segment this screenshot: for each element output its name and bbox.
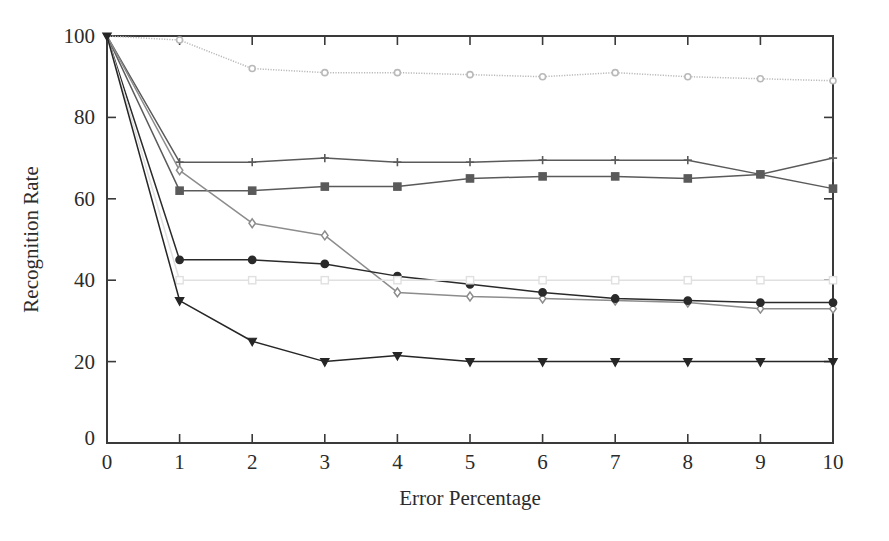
x-tick-label: 3	[320, 450, 331, 474]
plot-frame	[107, 36, 833, 443]
x-axis-ticks	[180, 36, 761, 443]
data-point	[612, 295, 619, 302]
data-point	[612, 277, 619, 284]
data-point	[539, 277, 546, 284]
series-series-7	[107, 36, 837, 366]
data-point	[829, 185, 836, 192]
data-point	[757, 277, 764, 284]
data-point	[684, 297, 691, 304]
data-point	[684, 359, 692, 367]
x-tick-label: 7	[610, 450, 621, 474]
data-point	[539, 173, 546, 180]
x-tick-label: 4	[392, 450, 403, 474]
data-point	[829, 277, 836, 284]
data-point	[756, 359, 764, 367]
data-point	[394, 288, 400, 297]
data-point	[249, 66, 255, 72]
data-point	[322, 231, 328, 240]
data-point	[248, 158, 256, 166]
data-point	[393, 158, 401, 166]
data-point	[321, 154, 329, 162]
data-point	[539, 289, 546, 296]
data-point	[177, 37, 183, 43]
data-point	[249, 219, 255, 228]
data-point	[176, 187, 183, 194]
x-tick-label: 5	[465, 450, 476, 474]
data-point	[249, 256, 256, 263]
data-point	[830, 78, 836, 84]
data-point	[321, 260, 328, 267]
data-point	[684, 156, 692, 164]
data-point	[466, 359, 474, 367]
y-axis-title: Recognition Rate	[19, 166, 43, 312]
line-chart: 012345678910 020406080100 Error Percenta…	[0, 0, 889, 541]
data-point	[321, 277, 328, 284]
data-point	[829, 359, 837, 367]
y-axis-ticks	[107, 117, 833, 361]
data-point	[684, 175, 691, 182]
data-point	[757, 299, 764, 306]
data-point	[466, 158, 474, 166]
x-axis-tick-labels: 012345678910	[102, 450, 844, 474]
series-line	[107, 36, 833, 174]
data-series-layer	[103, 33, 837, 366]
data-point	[611, 359, 619, 367]
y-axis-tick-labels: 020406080100	[64, 24, 96, 450]
data-point	[466, 277, 473, 284]
x-tick-label: 10	[823, 450, 844, 474]
data-point	[757, 76, 763, 82]
data-point	[612, 173, 619, 180]
series-series-3	[107, 36, 837, 194]
data-point	[612, 70, 618, 76]
data-point	[540, 74, 546, 80]
series-series-2	[107, 36, 837, 178]
y-tick-label: 60	[74, 187, 95, 211]
data-point	[685, 74, 691, 80]
data-point	[176, 256, 183, 263]
y-tick-label: 80	[74, 105, 95, 129]
x-tick-label: 2	[247, 450, 258, 474]
data-point	[394, 183, 401, 190]
x-tick-label: 0	[102, 450, 113, 474]
x-tick-label: 6	[537, 450, 548, 474]
y-tick-label: 40	[74, 268, 95, 292]
data-point	[249, 187, 256, 194]
data-point	[684, 277, 691, 284]
data-point	[538, 359, 546, 367]
data-point	[467, 72, 473, 78]
chart-container: 012345678910 020406080100 Error Percenta…	[0, 0, 889, 541]
x-tick-label: 8	[683, 450, 694, 474]
y-tick-label: 20	[74, 350, 95, 374]
data-point	[321, 183, 328, 190]
data-point	[394, 70, 400, 76]
x-tick-label: 1	[174, 450, 185, 474]
data-point	[829, 154, 837, 162]
data-point	[757, 171, 764, 178]
x-axis-title: Error Percentage	[399, 486, 541, 510]
data-point	[394, 277, 401, 284]
x-tick-label: 9	[755, 450, 766, 474]
data-point	[611, 156, 619, 164]
data-point	[829, 299, 836, 306]
data-point	[467, 292, 473, 301]
series-series-1	[107, 36, 836, 84]
data-point	[249, 277, 256, 284]
data-point	[176, 277, 183, 284]
data-point	[539, 156, 547, 164]
data-point	[466, 175, 473, 182]
y-tick-label: 100	[64, 24, 96, 48]
data-point	[322, 70, 328, 76]
series-line	[107, 36, 833, 362]
data-point	[321, 359, 329, 367]
y-tick-label: 0	[85, 426, 96, 450]
